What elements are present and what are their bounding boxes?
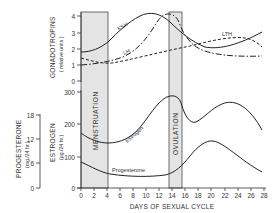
progesterone-units-label: (mg./24 hr.) (24, 141, 30, 168)
progesterone-axis-label: PROGESTERONE (15, 119, 22, 178)
svg-text:12: 12 (27, 136, 35, 143)
svg-text:4: 4 (71, 13, 75, 20)
svg-text:0: 0 (71, 78, 75, 85)
svg-text:10: 10 (142, 192, 150, 199)
svg-text:200: 200 (64, 121, 75, 128)
svg-text:0: 0 (79, 192, 83, 199)
hormone-cycle-chart: MENSTRUATION OVULATION 4 3 2 1 0 GONADOT… (0, 0, 278, 213)
gonad-ticks: 4 3 2 1 0 (71, 13, 81, 85)
svg-text:6: 6 (118, 192, 122, 199)
svg-text:20: 20 (207, 192, 215, 199)
ovulation-label: OVULATION (172, 113, 179, 155)
svg-text:16: 16 (181, 192, 189, 199)
svg-text:2: 2 (92, 192, 96, 199)
estrogen-units-label: (µg./24 hr.) (58, 135, 64, 160)
svg-text:0: 0 (30, 185, 34, 192)
svg-text:4: 4 (105, 192, 109, 199)
svg-text:26: 26 (247, 192, 255, 199)
gonadotropins-axis-label: GONADOTROPINS (49, 16, 56, 78)
svg-text:18: 18 (27, 112, 35, 119)
svg-text:2: 2 (71, 46, 75, 53)
progesterone-curve-label: Progesterone (112, 167, 145, 173)
svg-text:300: 300 (64, 89, 75, 96)
svg-text:6: 6 (30, 160, 34, 167)
svg-text:14: 14 (168, 192, 176, 199)
svg-text:24: 24 (234, 192, 242, 199)
lth-label: LTH (222, 31, 232, 37)
svg-text:1: 1 (71, 62, 75, 69)
svg-text:12: 12 (155, 192, 163, 199)
estrogen-ticks: 300 200 100 0 (64, 89, 81, 192)
svg-text:3: 3 (71, 30, 75, 37)
svg-text:0: 0 (71, 185, 75, 192)
fsh-label: FSH (116, 21, 129, 32)
gonadotropins-units-label: ( relative units ) (58, 36, 64, 72)
svg-text:8: 8 (131, 192, 135, 199)
estrogen-curve-label: Estrogen (124, 125, 145, 144)
svg-text:100: 100 (64, 154, 75, 161)
svg-text:18: 18 (194, 192, 202, 199)
x-axis-label: DAYS OF SEXUAL CYCLE (130, 203, 215, 210)
lh-label: LH (122, 48, 131, 56)
estrogen-axis-label: ESTROGEN (49, 123, 56, 162)
svg-text:22: 22 (221, 192, 229, 199)
x-ticks: 0 2 4 6 8 10 12 14 16 18 20 22 24 26 28 (79, 188, 268, 199)
svg-text:28: 28 (260, 192, 268, 199)
